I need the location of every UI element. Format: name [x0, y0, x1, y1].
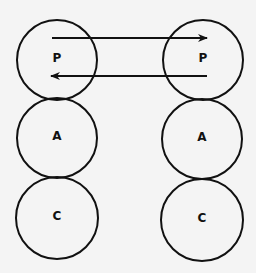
node-right-p: P: [163, 20, 243, 100]
node-label: A: [197, 130, 207, 144]
transactional-diagram: PACPAC: [0, 0, 256, 273]
node-right-c: C: [161, 179, 243, 261]
node-label: P: [199, 51, 208, 65]
node-left-a: A: [17, 98, 97, 178]
node-left-c: C: [16, 177, 98, 259]
diagram-canvas: PACPAC: [0, 0, 256, 273]
ego-state-nodes: PACPAC: [16, 20, 243, 261]
node-label: A: [52, 129, 62, 143]
node-label: C: [198, 211, 207, 225]
node-right-a: A: [162, 99, 242, 179]
node-left-p: P: [17, 20, 97, 100]
node-label: C: [53, 209, 62, 223]
transaction-arrows: [51, 38, 207, 76]
node-label: P: [53, 51, 62, 65]
